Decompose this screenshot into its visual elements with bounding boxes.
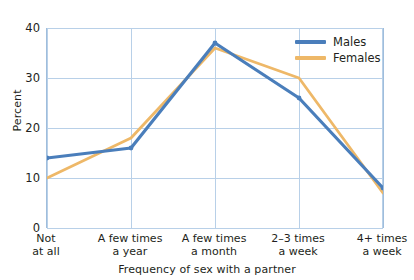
y-tick-label-10: 10 (14, 171, 44, 185)
x-tick-line1: A few times (98, 232, 163, 245)
legend-label-males: Males (333, 35, 366, 49)
y-tick-label-30: 30 (14, 71, 44, 85)
x-tick-label-2-3-times-a-week: 2–3 times a week (271, 232, 325, 258)
x-tick-line2: a month (182, 245, 247, 258)
legend-item-females: Females (295, 50, 395, 66)
x-tick-line1: Not (32, 232, 59, 245)
x-axis-tick-labels: Not at all A few times a year A few time… (46, 232, 382, 262)
legend-swatch-females-icon (295, 56, 326, 60)
y-tick-label-40: 40 (14, 21, 44, 35)
legend-item-males: Males (295, 34, 395, 50)
x-tick-line2: a week (271, 245, 325, 258)
x-tick-line2: at all (32, 245, 59, 258)
x-tick-label-4-plus-times-a-week: 4+ times a week (357, 232, 407, 258)
legend-label-females: Females (333, 51, 381, 65)
chart-figure: Percent 40 30 20 10 0 Not at all A few t… (0, 0, 414, 280)
clipped-top-text (44, 0, 84, 2)
x-tick-line1: 2–3 times (271, 232, 325, 245)
legend-swatch-males-icon (295, 40, 326, 44)
x-tick-label-not-at-all: Not at all (32, 232, 59, 258)
x-tick-line2: a week (357, 245, 407, 258)
x-tick-label-few-times-a-month: A few times a month (182, 232, 247, 258)
x-tick-label-few-times-a-year: A few times a year (98, 232, 163, 258)
x-axis-title: Frequency of sex with a partner (0, 263, 414, 276)
y-tick-label-20: 20 (14, 121, 44, 135)
chart-legend: Males Females (295, 34, 395, 66)
x-tick-line1: A few times (182, 232, 247, 245)
x-tick-line2: a year (98, 245, 163, 258)
x-tick-line1: 4+ times (357, 232, 407, 245)
